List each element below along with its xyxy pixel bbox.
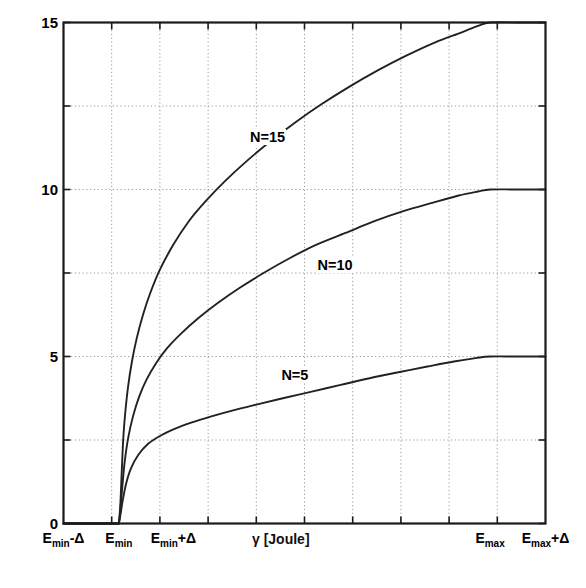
x-tick-label: Emax: [475, 530, 504, 546]
curve-label-n10: N=10: [317, 257, 354, 273]
y-tick-label: 5: [30, 348, 58, 365]
curve-label-n15: N=15: [249, 129, 286, 145]
x-tick-label: Emax+Δ: [522, 530, 570, 546]
y-tick-label: 0: [30, 515, 58, 532]
x-tick-label: Emin: [105, 530, 132, 546]
y-tick-label: 15: [30, 14, 58, 31]
curve-label-n5: N=5: [280, 367, 309, 383]
x-tick-label: Emin-Δ: [43, 530, 85, 546]
gridlines: [64, 23, 546, 524]
x-tick-label: Emin+Δ: [151, 530, 196, 546]
y-tick-label: 10: [30, 181, 58, 198]
plot-area: [0, 0, 586, 588]
x-axis-label: γ [Joule]: [252, 531, 310, 547]
chart-figure: The average number of participating CUs …: [0, 0, 586, 588]
